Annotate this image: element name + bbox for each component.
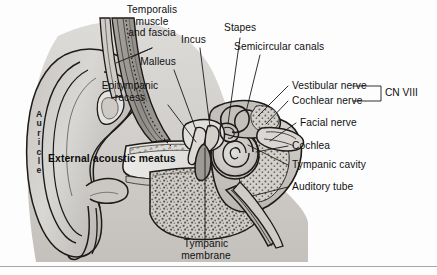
label-epitympanic-recess: Epitympanic recess — [86, 80, 174, 103]
label-external-acoustic-meatus: External acoustic meatus — [48, 153, 176, 165]
label-tympanic-cavity: Tympanic cavity — [292, 159, 366, 171]
label-tympanic-membrane: Tympanic membrane — [160, 238, 252, 261]
label-semicircular-canals: Semicircular canals — [234, 41, 324, 53]
label-vestibular-nerve: Vestibular nerve — [292, 80, 367, 92]
ear-anatomy-figure: Temporalis muscle and fascia Malleus Epi… — [0, 0, 437, 275]
label-cochlea: Cochlea — [292, 140, 330, 152]
label-auricle: A u r i c l e — [33, 110, 45, 176]
label-facial-nerve: Facial nerve — [300, 117, 357, 129]
label-stapes: Stapes — [224, 22, 256, 34]
label-auditory-tube: Auditory tube — [292, 181, 353, 193]
ear-anatomy-illustration — [0, 0, 437, 275]
label-incus: Incus — [181, 34, 206, 46]
label-malleus: Malleus — [86, 56, 176, 68]
label-cn8: CN VIII — [385, 87, 418, 98]
label-cochlear-nerve: Cochlear nerve — [292, 95, 362, 107]
